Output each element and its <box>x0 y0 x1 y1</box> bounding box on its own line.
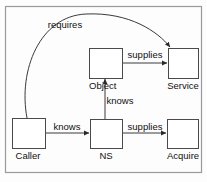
diagram-svg: requiresknowssuppliesknowssupplies Calle… <box>0 0 207 182</box>
node-label-ns: NS <box>99 150 112 161</box>
edge-label-caller-knows-ns: knows <box>54 121 81 132</box>
node-label-service: Service <box>167 80 199 91</box>
edge-label-object-supplies-service: supplies <box>128 49 163 60</box>
node-box-caller[interactable] <box>13 119 46 149</box>
node-label-object: Object <box>89 80 117 91</box>
node-box-acquire[interactable] <box>168 120 199 149</box>
diagram-canvas: requiresknowssuppliesknowssupplies Calle… <box>0 0 207 182</box>
node-box-object[interactable] <box>90 49 123 79</box>
edge-label-caller-requires-service: requires <box>48 19 83 30</box>
edge-label-ns-supplies-acquire: supplies <box>128 121 163 132</box>
edge-label-ns-knows-object: knows <box>107 95 134 106</box>
node-label-caller: Caller <box>16 150 41 161</box>
node-box-service[interactable] <box>169 49 199 79</box>
node-box-ns[interactable] <box>91 120 123 149</box>
node-label-acquire: Acquire <box>167 150 199 161</box>
